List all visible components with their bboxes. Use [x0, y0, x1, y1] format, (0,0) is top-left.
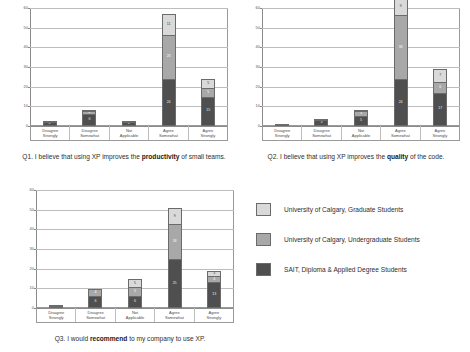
bar-value-label: 1 [55, 305, 57, 307]
chart-q3: 0102030405060 1164655251891343 DisagreeS… [24, 190, 234, 323]
bar-value-label: 25 [173, 282, 177, 286]
bar-slot: 1555 [188, 8, 228, 126]
x-category-label: AgreeSomewhat [155, 308, 194, 322]
bar-value-label: 1 [360, 110, 362, 112]
bar-stack: 655 [128, 280, 142, 308]
caption-q2-bold: quality [387, 153, 408, 160]
bar-value-label: 17 [438, 107, 442, 111]
bar-value-label: 5 [360, 119, 362, 123]
x-category-label: AgreeStrongly [195, 308, 233, 322]
caption-q2-prefix: Q2. I believe that using XP improves the [268, 153, 387, 160]
bar-value-label: 1 [49, 121, 51, 123]
bar-slot: 1343 [194, 190, 234, 308]
bar-segment: 5 [128, 287, 142, 297]
bar-value-label: 5 [207, 82, 209, 86]
x-category-label: DisagreeStrongly [31, 126, 70, 140]
bar-value-label: 1 [128, 121, 130, 123]
bar-value-label: 24 [399, 101, 403, 105]
bar-segment: 5 [128, 279, 142, 289]
chart-q2: 0102030405060 131531243391767 DisagreeSt… [250, 8, 460, 141]
bar-value-label: 4 [94, 291, 96, 295]
bar-segment: 24 [162, 79, 176, 126]
bar-segment: 15 [201, 97, 215, 127]
x-category-label: DisagreeStrongly [263, 126, 302, 140]
bar-slot: 24339 [381, 8, 421, 126]
bar-value-label: 3 [213, 272, 215, 276]
bar-slot: 21 [30, 8, 70, 126]
legend-item-undergrad: University of Calgary, Undergraduate Stu… [256, 233, 462, 246]
bar-slot: 21 [109, 8, 149, 126]
bar-slot: 64 [76, 190, 116, 308]
bar-slot: 31 [302, 8, 342, 126]
bar-stack: 621 [82, 111, 96, 126]
legend: University of Calgary, Graduate Students… [256, 203, 462, 276]
bar-segment: 4 [207, 276, 221, 284]
bar-value-label: 1 [88, 110, 90, 112]
x-axis-q2: DisagreeStronglyDisagreeSomewhatNotAppli… [262, 126, 460, 141]
bar-value-label: 6 [94, 300, 96, 304]
x-axis-q1: DisagreeStronglyDisagreeSomewhatNotAppli… [30, 126, 228, 141]
legend-label-undergrad: University of Calgary, Undergraduate Stu… [284, 236, 420, 244]
bar-segment: 1 [82, 110, 96, 112]
legend-swatch-sait [256, 263, 271, 276]
bar-segment: 33 [394, 15, 408, 80]
bar-slot: 25189 [155, 190, 195, 308]
bar-stack: 25189 [168, 209, 182, 308]
bar-value-label: 5 [134, 282, 136, 286]
bar-value-label: 13 [212, 293, 216, 297]
bar-stack: 242311 [162, 15, 176, 126]
plot-area-q3: 0102030405060 1164655251891343 [36, 190, 234, 308]
bar-stack: 1767 [433, 70, 447, 126]
chart-q1: 0102030405060 21621212423111555 Disagree… [18, 8, 228, 141]
bar-stack: 531 [354, 111, 368, 126]
bar-stack: 64 [88, 290, 102, 308]
bar-segment: 9 [168, 208, 182, 226]
bar-value-label: 5 [207, 91, 209, 95]
bar-slot: 1 [262, 8, 302, 126]
bars-q3: 1164655251891343 [36, 190, 234, 308]
bar-segment: 17 [433, 93, 447, 126]
legend-swatch-grad [256, 203, 271, 216]
bar-segment: 1 [354, 110, 368, 112]
caption-q1-suffix: of small teams. [179, 153, 225, 160]
x-category-label: NotApplicable [116, 308, 155, 322]
bar-slot: 11 [36, 190, 76, 308]
x-category-label: DisagreeSomewhat [302, 126, 341, 140]
caption-q2: Q2. I believe that using XP improves the… [250, 152, 462, 161]
legend-label-sait: SAIT, Diploma & Applied Degree Students [284, 266, 407, 274]
bar-segment: 24 [394, 79, 408, 126]
bar-value-label: 18 [173, 240, 177, 244]
bars-q1: 21621212423111555 [30, 8, 228, 126]
bar-slot: 531 [341, 8, 381, 126]
bar-stack: 1343 [207, 272, 221, 308]
bar-segment: 18 [168, 224, 182, 259]
bar-value-label: 1 [320, 119, 322, 121]
bar-slot: 655 [115, 190, 155, 308]
bar-slot: 1767 [420, 8, 460, 126]
bar-value-label: 5 [134, 290, 136, 294]
x-category-label: AgreeStrongly [421, 126, 459, 140]
bar-segment: 13 [207, 282, 221, 308]
bar-slot: 242311 [149, 8, 189, 126]
bar-value-label: 3 [360, 112, 362, 116]
bar-value-label: 9 [174, 215, 176, 219]
legend-item-grad: University of Calgary, Graduate Students [256, 203, 462, 216]
bar-stack: 24339 [394, 0, 408, 126]
caption-q3-suffix: to my company to use XP. [127, 335, 205, 342]
bar-value-label: 4 [213, 278, 215, 282]
bar-value-label: 11 [167, 23, 171, 27]
x-category-label: DisagreeSomewhat [70, 126, 109, 140]
bar-segment: 1 [314, 119, 328, 121]
x-category-label: DisagreeStrongly [37, 308, 76, 322]
bar-stack: 1555 [201, 80, 215, 126]
bar-value-label: 6 [134, 300, 136, 304]
bar-segment: 1 [122, 121, 136, 123]
x-category-label: DisagreeSomewhat [76, 308, 115, 322]
bar-value-label: 3 [320, 121, 322, 125]
bar-segment: 1 [43, 121, 57, 123]
caption-q3: Q3. I would recommend to my company to u… [24, 334, 236, 343]
bar-segment: 5 [201, 88, 215, 98]
x-category-label: NotApplicable [342, 126, 381, 140]
bar-segment: 6 [128, 296, 142, 308]
bar-value-label: 33 [399, 46, 403, 50]
